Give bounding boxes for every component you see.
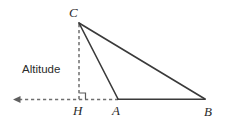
vertex-label-b: B: [204, 104, 212, 119]
geometry-figure: C H A B Altitude: [0, 0, 226, 122]
right-angle-marker-icon: [80, 93, 86, 99]
vertex-label-h: H: [72, 103, 83, 118]
vertex-label-c: C: [69, 5, 78, 20]
altitude-label: Altitude: [22, 63, 60, 75]
left-arrow-icon: [13, 96, 21, 103]
figure-canvas: C H A B Altitude: [0, 0, 226, 122]
vertex-label-a: A: [111, 103, 120, 118]
